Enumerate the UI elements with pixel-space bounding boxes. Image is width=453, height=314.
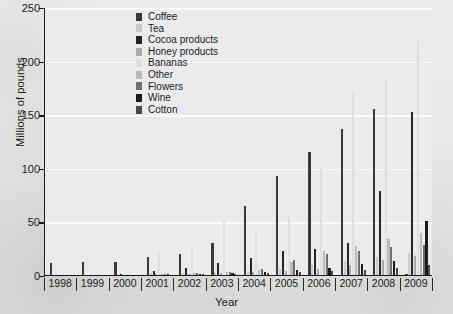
bar <box>167 274 169 275</box>
bar <box>417 41 419 275</box>
bar <box>425 221 427 275</box>
bar <box>282 251 284 275</box>
y-tick-label: 200 <box>12 56 40 68</box>
bar <box>261 269 263 275</box>
bar-group <box>239 8 271 275</box>
x-tick-label: 2003 <box>206 277 238 289</box>
bar <box>423 245 425 275</box>
bar <box>331 271 333 275</box>
bar <box>150 273 152 275</box>
bar <box>255 232 257 275</box>
bar <box>231 273 233 275</box>
x-tick-label: 2000 <box>109 277 141 289</box>
y-tick-label: 100 <box>12 163 40 175</box>
bar <box>50 263 52 275</box>
legend-swatch-icon <box>136 24 142 32</box>
x-tick-separator <box>367 278 368 291</box>
legend-item-label: Other <box>148 69 173 81</box>
bar <box>328 268 330 276</box>
bar-group <box>45 8 77 275</box>
bar <box>164 274 166 275</box>
bar <box>414 256 416 275</box>
bar <box>326 254 328 275</box>
y-tick-label: 250 <box>12 2 40 14</box>
x-axis-tick-labels: 1998199920002001200220032004200520062007… <box>44 277 432 295</box>
bar <box>158 253 160 276</box>
bar <box>82 262 84 275</box>
y-tick-label: 50 <box>12 216 40 228</box>
legend-item-label: Wine <box>148 92 171 104</box>
bar <box>349 265 351 275</box>
bar-group <box>271 8 303 275</box>
bar <box>161 274 163 275</box>
bar <box>147 257 149 275</box>
y-tick-mark <box>39 169 45 170</box>
bar <box>393 261 395 275</box>
legend-item-label: Honey products <box>148 46 218 58</box>
bar <box>376 257 378 275</box>
legend-item: Bananas <box>136 57 218 69</box>
plot-area <box>44 8 432 276</box>
legend-swatch-icon <box>136 82 142 90</box>
bar <box>387 239 389 275</box>
x-tick-separator <box>238 278 239 291</box>
y-axis-tick-labels: 050100150200250 <box>12 0 40 314</box>
bar <box>267 273 269 275</box>
bar <box>276 176 278 275</box>
bar <box>341 129 343 275</box>
bar <box>217 263 219 275</box>
x-axis-title: Year <box>0 296 453 308</box>
bar <box>379 191 381 275</box>
x-tick-separator <box>173 278 174 291</box>
bar <box>420 233 422 275</box>
legend-item: Cotton <box>136 104 218 116</box>
y-tick-mark <box>39 115 45 116</box>
bar <box>202 274 204 275</box>
bar <box>223 221 225 275</box>
bar <box>114 262 116 275</box>
bar <box>323 251 325 275</box>
bar <box>244 206 246 275</box>
legend-swatch-icon <box>136 94 142 102</box>
bar <box>226 272 228 275</box>
bar <box>390 247 392 275</box>
bar <box>361 264 363 275</box>
bar <box>364 270 366 275</box>
bar <box>191 246 193 275</box>
x-tick-label: 2005 <box>270 277 302 289</box>
x-tick-separator <box>335 278 336 291</box>
bar <box>396 268 398 276</box>
bar <box>117 274 119 275</box>
x-tick-label: 2001 <box>141 277 173 289</box>
bar <box>185 268 187 276</box>
bar <box>229 272 231 275</box>
bar <box>355 246 357 275</box>
bar <box>296 270 298 275</box>
x-tick-separator <box>432 278 433 291</box>
legend-item-label: Coffee <box>148 11 177 23</box>
bar <box>252 272 254 275</box>
bar <box>250 258 252 275</box>
y-tick-mark <box>39 62 45 63</box>
bar <box>126 274 128 275</box>
legend-item: Tea <box>136 23 218 35</box>
bar <box>352 91 354 275</box>
x-tick-label: 2004 <box>238 277 270 289</box>
bar <box>347 243 349 275</box>
x-tick-label: 2002 <box>173 277 205 289</box>
bar <box>382 260 384 275</box>
bar <box>408 253 410 276</box>
legend-item: Honey products <box>136 46 218 58</box>
x-tick-separator <box>76 278 77 291</box>
bar-chart-figure: Millions of pounds 050100150200250 19981… <box>0 0 453 314</box>
bar <box>311 265 313 275</box>
legend-swatch-icon <box>136 36 142 44</box>
bar <box>264 272 266 275</box>
legend-item-label: Cocoa products <box>148 34 218 46</box>
bar <box>247 271 249 275</box>
bar <box>293 260 295 275</box>
legend-item-label: Tea <box>148 23 164 35</box>
x-tick-separator <box>141 278 142 291</box>
bar <box>155 274 157 275</box>
bar <box>373 109 375 275</box>
